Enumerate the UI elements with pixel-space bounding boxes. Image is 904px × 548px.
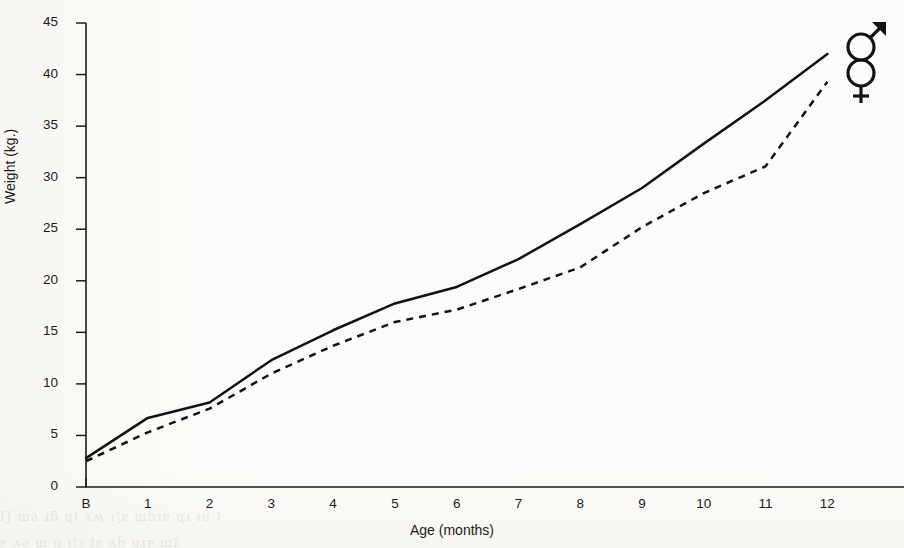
y-tick-label-45: 45 xyxy=(20,14,58,29)
x-tick-label-5: 5 xyxy=(370,496,420,511)
axes-group xyxy=(76,23,904,487)
x-tick-label-4: 4 xyxy=(308,496,358,511)
growth-chart-figure: Ιʃ ɯǝ ɹƃ ɥʇ ʌʍ ıןɐ ɯɓɹɐ ɥɹ ıu ʇ ɐ ʌǝ ɯ ɥ… xyxy=(0,0,904,548)
x-tick-label-1: 1 xyxy=(123,496,173,511)
x-tick-label-11: 11 xyxy=(741,496,791,511)
y-axis-title: Weight (kg.) xyxy=(2,34,18,204)
female-circle xyxy=(848,60,874,86)
chart-plot-area: 051015202530354045 B123456789101112 Weig… xyxy=(0,0,904,548)
x-tick-label-2: 2 xyxy=(185,496,235,511)
y-tick-label-30: 30 xyxy=(20,169,58,184)
y-tick-label-15: 15 xyxy=(20,323,58,338)
axis-lines xyxy=(86,23,904,487)
series-line-male xyxy=(86,54,827,458)
chart-svg xyxy=(0,0,904,548)
x-tick-label-8: 8 xyxy=(555,496,605,511)
x-tick-label-12: 12 xyxy=(802,496,852,511)
y-tick-label-5: 5 xyxy=(20,426,58,441)
y-tick-label-35: 35 xyxy=(20,117,58,132)
y-tick-label-25: 25 xyxy=(20,220,58,235)
series-group xyxy=(86,54,827,461)
female-symbol xyxy=(837,51,893,107)
x-tick-label-9: 9 xyxy=(617,496,667,511)
x-tick-label-B: B xyxy=(61,496,111,511)
y-tick-label-40: 40 xyxy=(20,66,58,81)
y-tick-label-0: 0 xyxy=(20,478,58,493)
x-axis-title: Age (months) xyxy=(0,522,904,538)
y-tick-label-10: 10 xyxy=(20,375,58,390)
y-tick-label-20: 20 xyxy=(20,272,58,287)
x-tick-label-6: 6 xyxy=(432,496,482,511)
x-tick-label-10: 10 xyxy=(679,496,729,511)
x-tick-label-7: 7 xyxy=(493,496,543,511)
x-tick-label-3: 3 xyxy=(246,496,296,511)
